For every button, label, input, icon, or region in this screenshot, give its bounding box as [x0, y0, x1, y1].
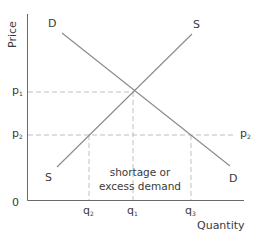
x-axis-label: Quantity [197, 219, 245, 232]
p1-label: p 1 [12, 84, 23, 97]
svg-text:2: 2 [247, 133, 251, 140]
p2-right-label: p 2 [240, 127, 251, 140]
svg-text:2: 2 [19, 133, 23, 140]
svg-text:excess demand: excess demand [99, 180, 181, 192]
svg-text:q: q [83, 204, 90, 217]
svg-text:1: 1 [19, 90, 23, 97]
q2-label: q 2 [83, 204, 94, 217]
origin-label: 0 [12, 196, 19, 209]
p2-label: p 2 [12, 127, 23, 140]
svg-text:2: 2 [90, 210, 94, 217]
demand-curve [62, 33, 230, 166]
supply-curve [57, 34, 192, 167]
svg-text:q: q [127, 204, 134, 217]
svg-text:p: p [12, 127, 19, 140]
svg-text:3: 3 [192, 210, 196, 217]
svg-text:1: 1 [134, 210, 138, 217]
svg-text:p: p [240, 127, 247, 140]
svg-text:q: q [185, 204, 192, 217]
supply-label-bottom: S [45, 171, 52, 184]
svg-text:shortage or: shortage or [110, 166, 171, 178]
demand-label-top: D [48, 17, 56, 30]
shortage-annotation: shortage or excess demand [99, 166, 181, 192]
supply-demand-chart: Price Quantity 0 D D S S p 1 p 2 p 2 q 2… [0, 0, 258, 243]
demand-label-bottom: D [229, 172, 237, 185]
y-axis-label: Price [6, 21, 19, 48]
svg-text:p: p [12, 84, 19, 97]
supply-label-top: S [193, 18, 200, 31]
q3-label: q 3 [185, 204, 196, 217]
q1-label: q 1 [127, 204, 138, 217]
